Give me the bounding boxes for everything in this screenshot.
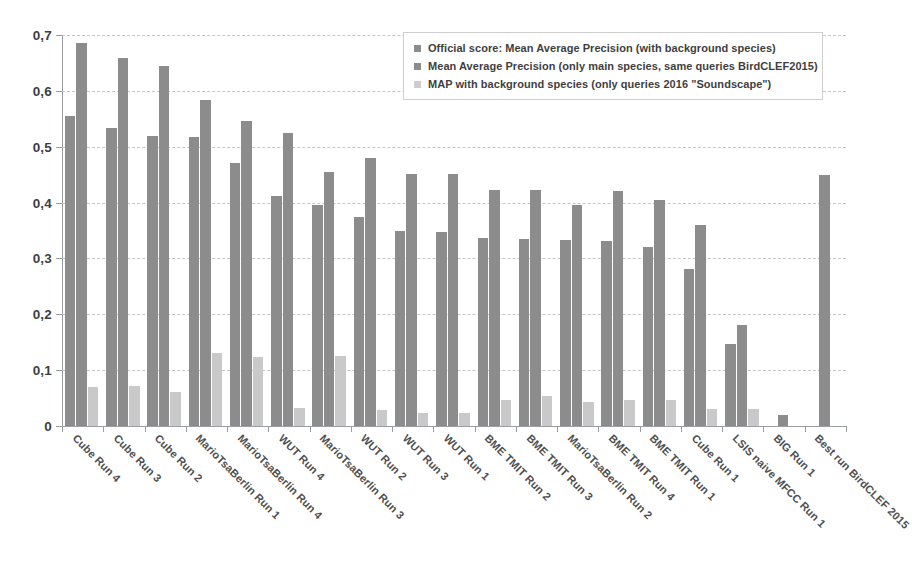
bar-series-1 — [572, 205, 583, 426]
bar-series-2 — [88, 387, 99, 426]
y-axis-tick-label: 0,7 — [33, 28, 52, 43]
bar-series-0 — [560, 240, 571, 426]
bar-series-0 — [147, 136, 158, 426]
bar-series-1 — [654, 200, 665, 426]
bar-group — [351, 35, 392, 426]
bar-group — [103, 35, 144, 426]
bar-series-1 — [695, 225, 706, 426]
bar-series-0 — [436, 232, 447, 426]
bar-series-0 — [65, 116, 76, 426]
bar-series-1 — [200, 100, 211, 426]
legend-item-1[interactable]: Mean Average Precision (only main specie… — [414, 60, 812, 72]
y-axis-tick-label: 0,3 — [33, 251, 52, 266]
bar-series-2 — [253, 357, 264, 426]
bar-series-2 — [748, 409, 759, 426]
bar-series-1 — [448, 174, 459, 426]
bar-series-1 — [737, 325, 748, 426]
bar-series-2 — [170, 392, 181, 426]
x-axis-tick — [846, 426, 847, 432]
bar-series-1 — [159, 66, 170, 426]
bar-series-2 — [335, 356, 346, 426]
bar-series-1 — [324, 172, 335, 426]
legend-item-0[interactable]: Official score: Mean Average Precision (… — [414, 42, 812, 54]
bar-series-2 — [212, 353, 223, 426]
bar-series-2 — [418, 413, 429, 426]
bar-series-0 — [312, 205, 323, 426]
bar-series-2 — [583, 402, 594, 426]
y-axis-tick-label: 0 — [44, 419, 52, 434]
bar-group — [145, 35, 186, 426]
bar-series-1 — [365, 158, 376, 426]
x-axis-label: MarioTsaBerlin Run 1 — [194, 432, 283, 521]
bar-series-2 — [294, 408, 305, 426]
y-axis-tick-label: 0,6 — [33, 83, 52, 98]
y-axis-tick-label: 0,5 — [33, 139, 52, 154]
bar-group — [186, 35, 227, 426]
bar-series-0 — [189, 137, 200, 426]
bar-series-0 — [778, 415, 789, 426]
legend-label-1: Mean Average Precision (only main specie… — [428, 60, 818, 72]
bar-series-0 — [230, 163, 241, 426]
bar-series-1 — [406, 174, 417, 426]
y-axis-tick-label: 0,1 — [33, 363, 52, 378]
x-axis-label: MarioTsaBerlin Run 2 — [565, 432, 654, 521]
legend-label-2: MAP with background species (only querie… — [428, 78, 771, 90]
x-axis-labels: Cube Run 4Cube Run 3Cube Run 2MarioTsaBe… — [62, 432, 846, 563]
bar-group — [268, 35, 309, 426]
bar-series-2 — [666, 400, 677, 426]
legend-item-2[interactable]: MAP with background species (only querie… — [414, 78, 812, 90]
bar-series-1 — [283, 133, 294, 426]
bar-series-1 — [613, 191, 624, 426]
bar-series-1 — [118, 58, 129, 426]
legend-label-0: Official score: Mean Average Precision (… — [428, 42, 776, 54]
bar-series-0 — [395, 231, 406, 426]
bar-series-2 — [459, 413, 470, 426]
bar-series-0 — [684, 269, 695, 426]
bar-group — [62, 35, 103, 426]
bar-series-0 — [725, 344, 736, 426]
x-axis-label: MarioTsaBerlin Run 3 — [318, 432, 407, 521]
bar-series-0 — [478, 238, 489, 426]
x-axis-label: MarioTsaBerlin Run 4 — [235, 432, 324, 521]
y-axis-tick-label: 0,4 — [33, 195, 52, 210]
bar-series-1 — [530, 190, 541, 426]
bar-series-1 — [76, 43, 87, 426]
bar-group — [227, 35, 268, 426]
bar-series-0 — [519, 239, 530, 426]
series-2-swatch-icon — [414, 81, 421, 88]
series-0-swatch-icon — [414, 45, 421, 52]
bar-series-0 — [354, 217, 365, 426]
bar-series-2 — [542, 396, 553, 426]
bar-series-2 — [129, 386, 140, 426]
series-1-swatch-icon — [414, 63, 421, 70]
bar-series-0 — [643, 247, 654, 426]
bar-series-2 — [624, 400, 635, 426]
y-axis-tick-label: 0,2 — [33, 307, 52, 322]
bar-series-2 — [377, 410, 388, 426]
bar-series-2 — [501, 400, 512, 426]
bar-series-1 — [241, 121, 252, 426]
x-axis-baseline — [62, 426, 846, 427]
bar-series-0 — [601, 241, 612, 426]
chart-legend: Official score: Mean Average Precision (… — [403, 32, 823, 100]
bar-series-0 — [271, 196, 282, 426]
bar-series-2 — [707, 409, 718, 426]
bar-series-1 — [489, 190, 500, 426]
bar-series-0 — [819, 175, 830, 426]
bar-group — [310, 35, 351, 426]
bar-series-0 — [106, 128, 117, 426]
x-axis-label: Best run BirdCLEF 2015 — [813, 432, 912, 531]
